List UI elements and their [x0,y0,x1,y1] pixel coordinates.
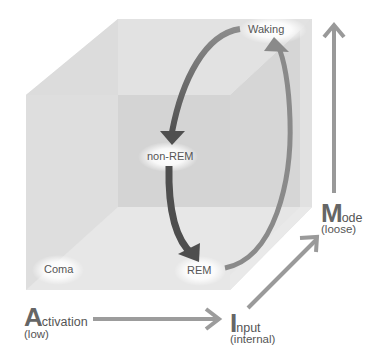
state-waking-label: Waking [248,24,284,35]
state-rem-label: REM [187,265,211,276]
state-non-rem-label: non-REM [147,151,193,162]
aim-cube-diagram: Waking non-REM REM Coma Activation (low)… [0,0,382,360]
axis-input-qualifier: (internal) [230,333,275,345]
axis-activation-qualifier: (low) [24,328,88,340]
state-coma-label: Coma [44,264,73,275]
axis-activation-rest: ctivation [42,315,88,329]
axis-input-label: Input (internal) [230,308,275,345]
axis-activation-label: Activation (low) [24,302,88,340]
axis-mode-label: Mode (loose) [321,198,363,235]
